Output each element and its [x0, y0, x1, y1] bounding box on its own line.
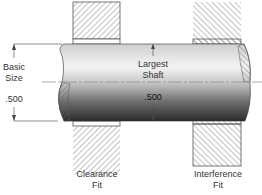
shaft: [58, 44, 250, 121]
largest-label: Largest: [133, 59, 173, 70]
basic-label: Basic: [0, 62, 28, 73]
largest-shaft-label: Largest Shaft: [133, 59, 173, 81]
basic-size-value: .500: [0, 94, 28, 105]
interference-fit-label: Interference Fit: [186, 169, 250, 191]
shaft-value: .500: [136, 92, 170, 103]
basic-size-label: Basic Size: [0, 62, 28, 84]
interference-label: Interference: [186, 169, 250, 180]
fit-label: Fit: [66, 180, 128, 191]
interference-hole-bottom: [193, 119, 241, 166]
clearance-hole-bottom: [73, 121, 120, 175]
clearance-hole-top: [73, 2, 120, 44]
clearance-fit-label: Clearance Fit: [66, 169, 128, 191]
fit-diagram: [0, 0, 262, 195]
clearance-label: Clearance: [66, 169, 128, 180]
fit-label: Fit: [186, 180, 250, 191]
size-label: Size: [0, 73, 28, 84]
shaft-label: Shaft: [133, 70, 173, 81]
interference-hole-top: [193, 2, 241, 44]
